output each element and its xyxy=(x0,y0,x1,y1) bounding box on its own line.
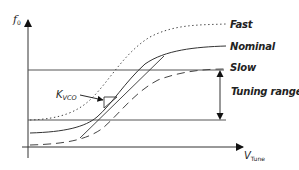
tuning-range-arrow-top-icon xyxy=(217,70,224,77)
fast-curve xyxy=(30,24,226,120)
x-axis-label-main: V xyxy=(244,150,251,161)
x-axis-label-subscript: Tune xyxy=(251,155,265,162)
tuning-range-label: Tuning range xyxy=(231,86,299,97)
y-axis-label-subscript: 0 xyxy=(17,19,21,26)
kvco-slope-triangle xyxy=(104,97,117,108)
fast-curve-label: Fast xyxy=(230,19,252,30)
x-axis-label: VTune xyxy=(244,150,265,162)
kvco-label: KVCO xyxy=(56,89,77,102)
y-axis-label: f0 xyxy=(13,13,21,26)
tuning-range-arrow-bottom-icon xyxy=(217,113,224,120)
vco-tuning-diagram xyxy=(0,0,299,170)
kvco-label-subscript: VCO xyxy=(63,94,77,102)
slow-curve-label: Slow xyxy=(230,62,256,73)
nominal-curve-label: Nominal xyxy=(230,41,275,52)
slow-curve xyxy=(30,69,226,145)
kvco-pointer-arrow xyxy=(80,95,103,100)
